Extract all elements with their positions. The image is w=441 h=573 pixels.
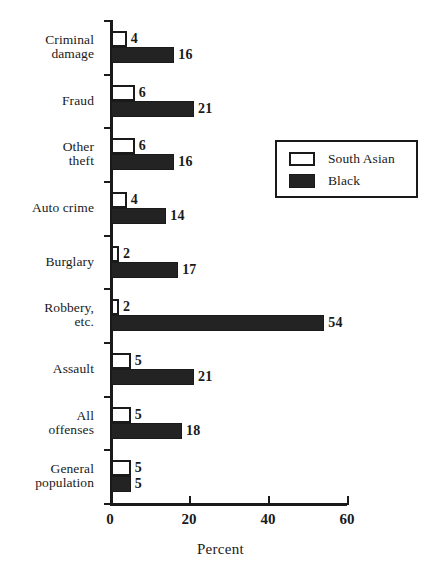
bar-value-label: 5 <box>135 476 142 492</box>
category-label: Criminal damage <box>45 33 94 61</box>
y-axis-tick <box>104 74 113 76</box>
y-axis-tick <box>104 181 113 183</box>
x-axis-tick-label: 0 <box>90 511 130 528</box>
category-label: Auto crime <box>32 201 94 215</box>
bar-black <box>111 154 174 170</box>
category-label: General population <box>35 462 94 490</box>
bar-south-asian <box>111 460 131 476</box>
x-axis-tick <box>110 496 112 505</box>
bar-value-label: 5 <box>135 460 142 476</box>
bar-value-label: 14 <box>170 208 184 224</box>
bar-black <box>111 476 131 492</box>
legend-label-south-asian: South Asian <box>328 151 395 167</box>
legend-box: South Asian Black <box>275 140 418 198</box>
bar-value-label: 21 <box>198 369 212 385</box>
category-label: Burglary <box>45 255 94 269</box>
y-axis-tick <box>104 127 113 129</box>
bar-south-asian <box>111 192 127 208</box>
x-axis-tick <box>347 496 349 505</box>
bar-black <box>111 262 178 278</box>
bar-value-label: 4 <box>131 31 138 47</box>
category-label: Fraud <box>62 94 94 108</box>
bar-value-label: 16 <box>178 154 192 170</box>
bar-black <box>111 369 194 385</box>
y-axis-tick <box>104 449 113 451</box>
legend-swatch-black <box>289 174 315 188</box>
bar-south-asian <box>111 299 119 315</box>
x-axis-tick-label: 40 <box>248 511 288 528</box>
x-axis-tick <box>268 496 270 505</box>
x-axis-line <box>110 503 347 506</box>
x-axis-tick <box>189 496 191 505</box>
bar-value-label: 6 <box>139 138 146 154</box>
bar-value-label: 18 <box>186 423 200 439</box>
bar-value-label: 2 <box>123 246 130 262</box>
x-axis-tick-label: 60 <box>327 511 367 528</box>
bar-south-asian <box>111 85 135 101</box>
bar-black <box>111 47 174 63</box>
category-label: Other theft <box>63 140 94 168</box>
bar-value-label: 6 <box>139 85 146 101</box>
legend-label-black: Black <box>328 173 360 189</box>
bar-value-label: 5 <box>135 353 142 369</box>
bar-value-label: 2 <box>123 299 130 315</box>
y-axis-tick <box>104 342 113 344</box>
y-axis-tick <box>104 235 113 237</box>
y-axis-tick <box>104 288 113 290</box>
bar-value-label: 16 <box>178 47 192 63</box>
bar-value-label: 17 <box>182 262 196 278</box>
bar-black <box>111 208 166 224</box>
category-label: Assault <box>53 362 94 376</box>
category-label: All offenses <box>48 409 94 437</box>
category-label: Robbery, etc. <box>44 301 94 329</box>
bar-value-label: 4 <box>131 192 138 208</box>
y-axis-tick <box>104 396 113 398</box>
bar-black <box>111 315 324 331</box>
y-axis-tick <box>104 20 113 22</box>
legend-swatch-south-asian <box>289 152 315 166</box>
bar-value-label: 54 <box>328 315 342 331</box>
bar-south-asian <box>111 138 135 154</box>
bar-value-label: 5 <box>135 407 142 423</box>
legend-item-black: Black <box>289 172 360 190</box>
bar-value-label: 21 <box>198 101 212 117</box>
bar-chart: Criminal damageFraudOther theftAuto crim… <box>0 0 441 573</box>
bar-south-asian <box>111 31 127 47</box>
bar-south-asian <box>111 246 119 262</box>
bar-black <box>111 101 194 117</box>
legend-item-south-asian: South Asian <box>289 150 395 168</box>
clipped-caption <box>0 568 441 573</box>
bar-south-asian <box>111 353 131 369</box>
bar-south-asian <box>111 407 131 423</box>
x-axis-title: Percent <box>0 541 441 558</box>
bar-black <box>111 423 182 439</box>
x-axis-tick-label: 20 <box>169 511 209 528</box>
